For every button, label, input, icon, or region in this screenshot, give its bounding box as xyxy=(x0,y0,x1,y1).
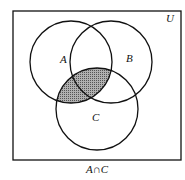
set-a-label: A xyxy=(59,53,67,65)
set-c-label: C xyxy=(92,111,100,123)
caption: A∩C xyxy=(85,163,109,175)
set-b-circle xyxy=(70,21,152,103)
venn-diagram: U A B C A∩C xyxy=(0,0,185,180)
universe-label: U xyxy=(166,12,175,24)
set-b-label: B xyxy=(126,52,133,64)
